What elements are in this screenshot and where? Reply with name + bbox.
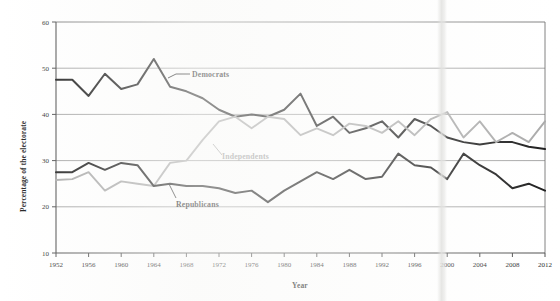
x-axis-title: Year: [292, 281, 308, 290]
x-tick-label-2004: 2004: [473, 261, 488, 269]
series-label-independents: Independents: [222, 152, 269, 161]
x-tick-label-1976: 1976: [245, 261, 260, 269]
y-tick-label-40: 40: [42, 111, 50, 119]
x-tick-label-1988: 1988: [342, 261, 357, 269]
x-tick-label-1968: 1968: [179, 261, 194, 269]
y-tick-label-50: 50: [42, 65, 50, 73]
y-axis-ticks: 102030405060: [42, 19, 56, 258]
x-tick-label-1972: 1972: [212, 261, 227, 269]
x-tick-label-2012: 2012: [538, 261, 553, 269]
y-tick-label-10: 10: [42, 250, 50, 258]
y-tick-label-20: 20: [42, 203, 50, 211]
y-tick-label-30: 30: [42, 157, 50, 165]
x-tick-label-1980: 1980: [277, 261, 292, 269]
series-label-democrats: Democrats: [192, 70, 229, 79]
x-tick-label-1956: 1956: [82, 261, 97, 269]
x-tick-label-1952: 1952: [49, 261, 64, 269]
x-axis-ticks: 1952195619601964196819721976198019841988…: [49, 253, 553, 269]
plot-background: [56, 22, 545, 253]
x-tick-label-2000: 2000: [440, 261, 455, 269]
y-axis-title: Percentage of the electorate: [19, 120, 28, 212]
y-tick-label-60: 60: [42, 19, 50, 27]
chart-container: 102030405060 195219561960196419681972197…: [0, 0, 560, 301]
x-tick-label-1960: 1960: [114, 261, 129, 269]
series-label-republicans: Republicans: [176, 200, 219, 209]
x-tick-label-2008: 2008: [505, 261, 520, 269]
x-tick-label-1964: 1964: [147, 261, 162, 269]
x-tick-label-1984: 1984: [310, 261, 325, 269]
line-chart: 102030405060 195219561960196419681972197…: [0, 0, 560, 301]
x-tick-label-1992: 1992: [375, 261, 390, 269]
x-tick-label-1996: 1996: [408, 261, 423, 269]
